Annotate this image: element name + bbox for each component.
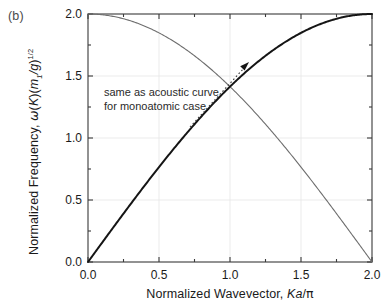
grid-lines — [88, 14, 372, 262]
x-axis-title-wrap: Normalized Wavevector, Ka/π — [88, 284, 372, 302]
y-axis-paren-close: ) — [27, 60, 41, 64]
y-tick-label: 1.5 — [48, 69, 82, 83]
annotation-line-1: same as acoustic curve — [104, 86, 219, 100]
x-axis-pi-symbol: π — [306, 286, 314, 301]
y-axis-omega-symbol: ω — [26, 111, 41, 122]
y-axis-paren-mid: )( — [27, 89, 41, 98]
y-tick-label: 2.0 — [48, 7, 82, 21]
figure-panel: (b) 0.00.51.01.52.0 0.00.51.01.52.0 Norm… — [0, 0, 392, 304]
x-axis-a-symbol: a — [295, 287, 302, 301]
y-tick-label: 0.5 — [48, 193, 82, 207]
x-axis-title: Normalized Wavevector, Ka/π — [146, 287, 314, 301]
y-axis-title: Normalized Frequency, ω(K)(m1/g)1/2 — [26, 49, 44, 255]
y-axis-exponent: 1/2 — [26, 49, 35, 60]
chart-annotation: same as acoustic curve for monoatomic ca… — [104, 86, 219, 113]
x-tick-label: 1.5 — [281, 268, 321, 282]
x-tick-label: 2.0 — [352, 268, 392, 282]
annotation-line-2: for monoatomic case — [104, 100, 219, 114]
x-tick-label: 1.0 — [210, 268, 250, 282]
y-axis-div-g: /g — [27, 64, 41, 75]
y-axis-paren-open: ( — [27, 106, 41, 110]
y-axis-m-symbol: m — [27, 79, 41, 90]
y-axis-title-wrap: Normalized Frequency, ω(K)(m1/g)1/2 — [22, 0, 48, 304]
y-axis-K-symbol: K — [27, 98, 41, 106]
y-axis-m-subscript: 1 — [35, 75, 44, 79]
y-tick-label: 1.0 — [48, 131, 82, 145]
x-tick-label: 0.0 — [68, 268, 108, 282]
x-tick-label: 0.5 — [139, 268, 179, 282]
y-tick-label: 0.0 — [48, 255, 82, 269]
x-axis-title-prefix: Normalized Wavevector, — [146, 287, 287, 301]
y-axis-title-prefix: Normalized Frequency, — [27, 121, 41, 255]
